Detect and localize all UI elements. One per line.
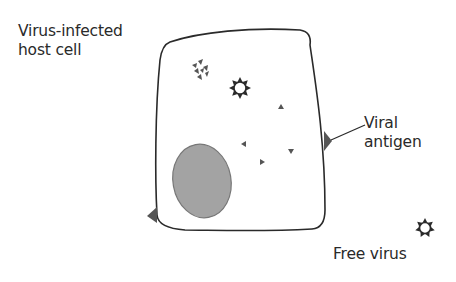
host-cell-label-line2: host cell <box>18 41 81 59</box>
intact-virus-icon <box>229 77 251 99</box>
viral-antigen-right <box>324 131 332 151</box>
viral-antigen-label-line1: Viral <box>364 114 398 132</box>
antigen-pointer-line <box>331 125 365 140</box>
viral-antigen-left <box>147 207 157 223</box>
free-virus-icon <box>415 218 436 238</box>
free-virus-label: Free virus <box>333 245 407 263</box>
viral-protein-particles <box>241 104 294 165</box>
host-cell-label-line1: Virus-infected <box>18 22 123 40</box>
nucleus <box>167 140 237 223</box>
viral-antigen-label-line2: antigen <box>364 133 422 151</box>
disassembling-virus-icon <box>192 59 209 80</box>
